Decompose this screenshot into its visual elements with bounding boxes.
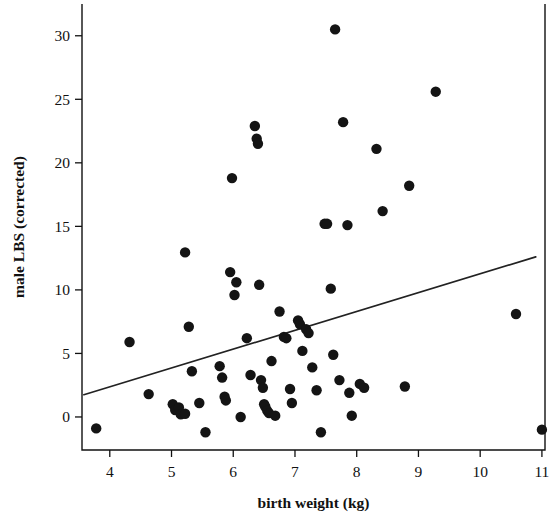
- data-point: [254, 280, 264, 290]
- data-point: [270, 410, 280, 420]
- data-point: [235, 412, 245, 422]
- data-point: [194, 398, 204, 408]
- data-point: [307, 362, 317, 372]
- data-point: [253, 139, 263, 149]
- data-point: [326, 283, 336, 293]
- x-axis-title: birth weight (kg): [258, 494, 370, 512]
- data-point: [214, 361, 224, 371]
- y-tick-label: 25: [55, 91, 71, 108]
- x-tick-label: 11: [534, 463, 549, 480]
- data-point: [400, 381, 410, 391]
- data-point: [537, 424, 547, 434]
- plot-canvas: 0510152025304567891011birth weight (kg)m…: [0, 0, 550, 531]
- plot-frame: [82, 4, 545, 450]
- data-point: [347, 410, 357, 420]
- data-point: [266, 356, 276, 366]
- x-tick-label: 4: [106, 463, 114, 480]
- data-point: [328, 350, 338, 360]
- data-point: [377, 206, 387, 216]
- y-tick-label: 0: [62, 408, 70, 425]
- data-point: [297, 346, 307, 356]
- data-point: [338, 117, 348, 127]
- x-tick-label: 6: [229, 463, 237, 480]
- data-point: [180, 247, 190, 257]
- data-point: [334, 375, 344, 385]
- x-tick-label: 7: [291, 463, 299, 480]
- data-point: [245, 370, 255, 380]
- data-point: [250, 121, 260, 131]
- data-point: [221, 395, 231, 405]
- data-point: [359, 383, 369, 393]
- data-point: [404, 181, 414, 191]
- data-point: [217, 372, 227, 382]
- data-point: [322, 219, 332, 229]
- data-point: [303, 328, 313, 338]
- data-point: [344, 388, 354, 398]
- data-point: [229, 290, 239, 300]
- data-point: [316, 427, 326, 437]
- y-tick-label: 10: [55, 281, 71, 298]
- data-point: [311, 385, 321, 395]
- x-tick-label: 5: [168, 463, 176, 480]
- x-tick-label: 10: [472, 463, 488, 480]
- data-point: [431, 86, 441, 96]
- data-point: [371, 144, 381, 154]
- data-point: [511, 309, 521, 319]
- data-point: [143, 389, 153, 399]
- data-point: [342, 220, 352, 230]
- data-point: [330, 24, 340, 34]
- data-point: [231, 277, 241, 287]
- y-axis-title: male LBS (corrected): [10, 156, 28, 298]
- scatter-plot-figure: 0510152025304567891011birth weight (kg)m…: [0, 0, 550, 531]
- data-point: [285, 384, 295, 394]
- data-point: [200, 427, 210, 437]
- data-point: [124, 337, 134, 347]
- x-tick-label: 8: [353, 463, 361, 480]
- y-tick-label: 30: [55, 27, 71, 44]
- x-tick-label: 9: [415, 463, 423, 480]
- data-point: [91, 423, 101, 433]
- data-point: [187, 366, 197, 376]
- data-point: [227, 173, 237, 183]
- y-tick-label: 5: [62, 345, 70, 362]
- data-point: [281, 333, 291, 343]
- data-point: [180, 409, 190, 419]
- y-tick-label: 15: [55, 218, 71, 235]
- data-point: [184, 322, 194, 332]
- data-point: [225, 267, 235, 277]
- data-point: [258, 383, 268, 393]
- y-tick-label: 20: [55, 154, 71, 171]
- data-point: [287, 398, 297, 408]
- data-point: [274, 306, 284, 316]
- data-point: [242, 333, 252, 343]
